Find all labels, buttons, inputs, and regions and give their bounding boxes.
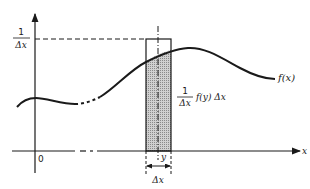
strip-probability-label: 1 Δx f(y) Δx — [177, 86, 226, 108]
svg-text:f(y) Δx: f(y) Δx — [195, 92, 226, 102]
point-y-label: y — [160, 152, 167, 162]
origin-label: 0 — [38, 154, 44, 164]
density-curve-break — [75, 97, 100, 104]
left-fraction-label: 1 Δx — [13, 27, 30, 50]
svg-text:1: 1 — [182, 86, 188, 96]
width-label: Δx — [151, 175, 164, 185]
x-axis-label: x — [302, 146, 307, 156]
svg-text:1: 1 — [18, 27, 24, 37]
svg-text:Δx: Δx — [14, 40, 27, 50]
curve-label: f(x) — [277, 72, 295, 83]
density-diagram: 1 Δx 1 Δx f(y) Δx f(x) 0 x y Δx — [0, 0, 310, 189]
density-curve-left — [17, 98, 75, 107]
svg-text:Δx: Δx — [178, 98, 191, 108]
